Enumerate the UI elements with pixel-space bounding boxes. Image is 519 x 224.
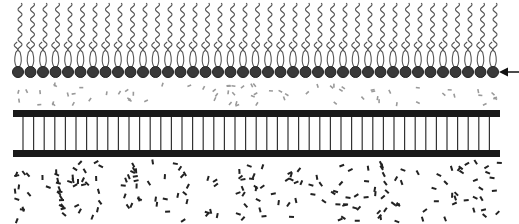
arrow-icon — [499, 68, 519, 77]
lipid-heads — [13, 67, 499, 78]
diagram-canvas — [0, 0, 519, 224]
lipid-tails — [14, 3, 497, 67]
lipid-membrane-diagram — [0, 0, 519, 224]
lower-particle-layer — [14, 159, 502, 223]
scaffold — [13, 110, 500, 157]
upper-particle-layer — [17, 82, 497, 106]
